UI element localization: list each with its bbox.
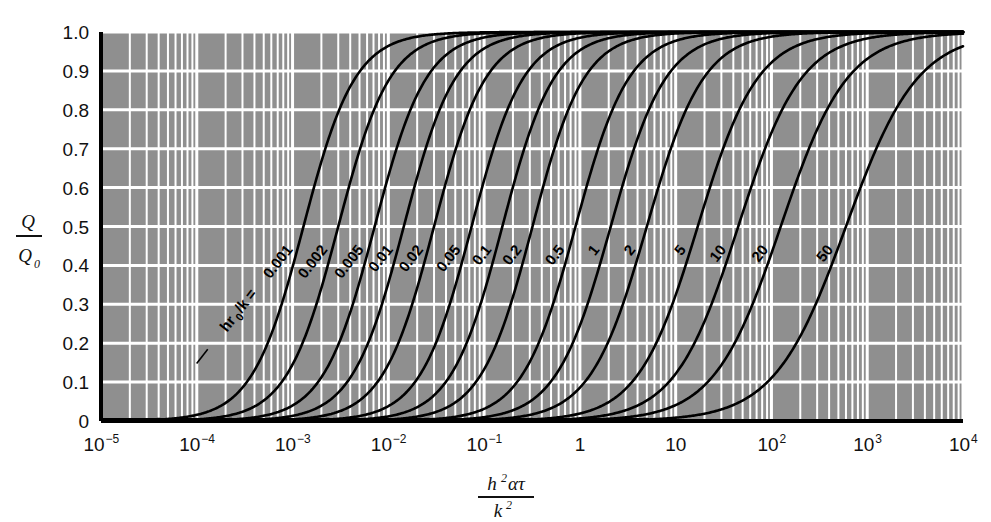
x-tick-label: 10: [371, 434, 392, 455]
y-tick-label: 0.3: [63, 294, 89, 315]
x-tick-label: 10: [467, 434, 488, 455]
y-axis-numerator: Q: [21, 211, 35, 232]
y-axis-denominator: Q: [18, 245, 32, 266]
x-tick-label-superscript: 2: [779, 432, 786, 446]
y-tick-label: 0: [78, 411, 89, 432]
y-tick-label: 0.8: [63, 100, 89, 121]
x-tick-label: 10: [275, 434, 296, 455]
y-tick-label: 0.9: [63, 61, 89, 82]
x-tick-label-superscript: 3: [875, 432, 882, 446]
x-tick-label: 10: [853, 434, 874, 455]
heat-transfer-chart: 10−510−410−310−210−1110102103104 00.10.2…: [0, 0, 991, 522]
y-tick-label: 0.6: [63, 178, 89, 199]
x-tick-label-superscript: −2: [393, 432, 407, 446]
x-tick-label-superscript: −3: [297, 432, 311, 446]
x-tick-label-superscript: 4: [971, 432, 978, 446]
x-tick-label-superscript: −4: [201, 432, 215, 446]
x-axis-numerator-alpha-tau: ατ: [508, 473, 526, 494]
x-axis-numerator-h: h: [487, 473, 497, 494]
y-tick-label: 0.2: [63, 333, 89, 354]
y-axis-denominator-subscript: 0: [34, 257, 40, 271]
y-tick-label: 0.7: [63, 139, 89, 160]
x-tick-label-superscript: −5: [106, 432, 120, 446]
x-tick-label: 10: [949, 434, 970, 455]
x-axis-denominator-k: k: [494, 500, 503, 521]
y-tick-label: 0.5: [63, 217, 89, 238]
y-tick-label: 1.0: [63, 22, 89, 43]
y-tick-label: 0.1: [63, 372, 89, 393]
x-axis-numerator-h-superscript: 2: [501, 471, 507, 485]
x-tick-label: 10: [84, 434, 105, 455]
x-tick-label: 10: [757, 434, 778, 455]
x-axis-denominator-k-superscript: 2: [506, 498, 512, 512]
y-tick-label: 0.4: [63, 255, 90, 276]
x-tick-label: 1: [575, 434, 586, 455]
x-tick-label: 10: [179, 434, 200, 455]
x-tick-label: 10: [665, 434, 686, 455]
x-tick-label-superscript: −1: [489, 432, 503, 446]
chart-figure: 10−510−410−310−210−1110102103104 00.10.2…: [0, 0, 991, 522]
